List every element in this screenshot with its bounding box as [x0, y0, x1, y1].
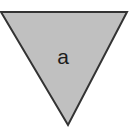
- triangle-shape-svg: [0, 0, 129, 138]
- figure-canvas: a: [0, 0, 129, 138]
- shape-label-text: a: [57, 45, 69, 68]
- shape-label: a: [0, 46, 129, 67]
- triangle-shape: [1, 12, 127, 125]
